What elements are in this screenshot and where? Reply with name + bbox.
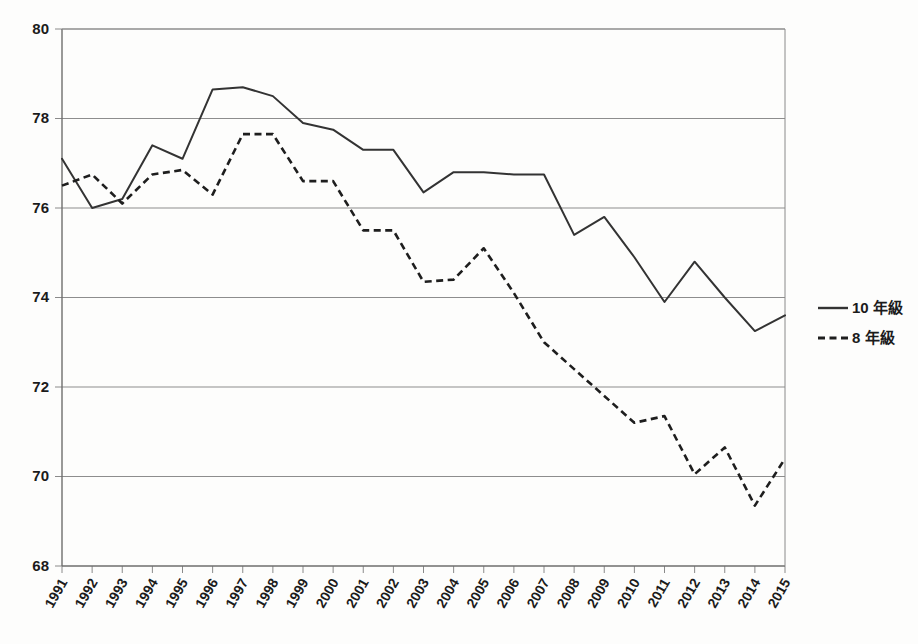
y-tick-label: 80	[32, 20, 49, 37]
x-tick-label: 2003	[403, 575, 433, 610]
x-tick-label: 2012	[674, 575, 704, 610]
x-tick-label: 2004	[433, 575, 463, 610]
y-axis-tick-labels: 68707274767880	[32, 20, 49, 574]
x-tick-label: 2001	[342, 575, 372, 610]
series-line-2	[62, 134, 785, 505]
gridlines-group	[62, 29, 785, 477]
y-tick-label: 78	[32, 109, 49, 126]
x-tick-label: 1991	[41, 575, 71, 610]
x-tick-marks-group	[62, 566, 785, 573]
x-tick-label: 1995	[162, 575, 192, 610]
legend-label-2: 8 年級	[852, 329, 895, 346]
x-tick-label: 2014	[734, 575, 764, 610]
x-tick-label: 2008	[553, 575, 583, 610]
x-tick-label: 2013	[704, 575, 734, 610]
chart-legend: 10 年級8 年級	[818, 299, 903, 346]
x-tick-label: 2010	[614, 575, 644, 610]
y-tick-label: 74	[32, 288, 49, 305]
x-tick-label: 1992	[71, 575, 101, 610]
x-tick-label: 1996	[192, 575, 222, 610]
y-tick-label: 68	[32, 557, 49, 574]
y-tick-marks-group	[55, 29, 62, 566]
x-tick-label: 1993	[101, 575, 131, 610]
y-tick-label: 76	[32, 199, 49, 216]
chart-canvas: 68707274767880 1991199219931994199519961…	[0, 0, 918, 644]
x-tick-label: 2009	[583, 575, 613, 610]
x-tick-label: 2002	[373, 575, 403, 610]
data-series-group	[62, 87, 785, 505]
x-tick-label: 1998	[252, 575, 282, 610]
x-axis-tick-labels: 1991199219931994199519961997199819992000…	[41, 575, 794, 610]
line-chart: 68707274767880 1991199219931994199519961…	[0, 0, 918, 644]
x-tick-label: 2007	[523, 575, 553, 610]
x-tick-label: 1994	[132, 575, 162, 610]
x-tick-label: 2011	[644, 575, 673, 609]
y-tick-label: 70	[32, 467, 49, 484]
legend-label-1: 10 年級	[852, 299, 903, 316]
series-line-1	[62, 87, 785, 331]
x-tick-label: 2005	[463, 575, 493, 610]
x-tick-label: 2015	[764, 575, 794, 610]
x-tick-label: 1997	[222, 575, 252, 610]
x-tick-label: 2006	[493, 575, 523, 610]
x-tick-label: 1999	[282, 575, 312, 610]
y-tick-label: 72	[32, 378, 49, 395]
x-tick-label: 2000	[312, 575, 342, 610]
